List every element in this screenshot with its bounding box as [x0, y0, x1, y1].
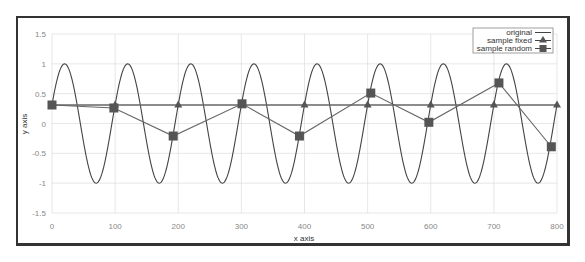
x-axis-ticks: 0100200300400500600700800 [50, 222, 564, 231]
square-marker-icon [238, 99, 247, 108]
x-tick-label: 200 [172, 222, 186, 231]
square-marker-icon [109, 103, 118, 112]
triangle-marker-icon [553, 101, 561, 108]
x-tick-label: 600 [424, 222, 438, 231]
y-tick-label: 1.5 [35, 30, 47, 39]
square-marker-icon [169, 132, 178, 141]
x-tick-label: 300 [235, 222, 249, 231]
y-tick-label: 1 [42, 60, 47, 69]
y-tick-label: -1 [39, 179, 47, 188]
line-chart: 1.510.50-0.5-1-1.5 010020030040050060070… [0, 0, 585, 262]
y-axis-label: y axis [20, 114, 29, 134]
legend: original sample fixed sample random [473, 28, 553, 53]
grid-lines [52, 34, 557, 213]
square-marker-icon [547, 142, 556, 151]
square-marker-icon [48, 101, 57, 110]
x-tick-label: 500 [361, 222, 375, 231]
triangle-marker-icon [490, 101, 498, 108]
y-tick-label: 0 [42, 120, 47, 129]
x-tick-label: 400 [298, 222, 312, 231]
y-axis-ticks: 1.510.50-0.5-1-1.5 [32, 30, 46, 218]
square-marker-icon [366, 89, 375, 98]
y-tick-label: -1.5 [32, 209, 46, 218]
triangle-marker-icon [301, 101, 309, 108]
square-marker-icon [295, 132, 304, 141]
x-tick-label: 100 [108, 222, 122, 231]
x-tick-label: 0 [50, 222, 55, 231]
triangle-marker-icon [427, 101, 435, 108]
legend-label-sample-random: sample random [477, 44, 532, 53]
triangle-marker-icon [364, 101, 372, 108]
square-marker-icon [424, 118, 433, 127]
x-axis-label: x axis [294, 234, 314, 243]
x-tick-label: 800 [550, 222, 564, 231]
square-marker-icon [494, 78, 503, 87]
triangle-marker-icon [174, 101, 182, 108]
y-tick-label: -0.5 [32, 149, 46, 158]
legend-square-icon [540, 45, 547, 52]
y-tick-label: 0.5 [35, 90, 47, 99]
x-tick-label: 700 [487, 222, 501, 231]
